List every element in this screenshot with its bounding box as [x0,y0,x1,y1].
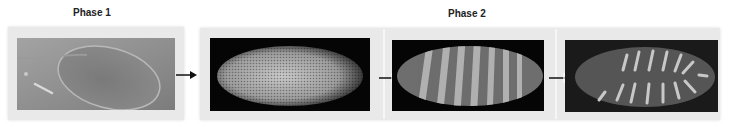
embryo-syncytial-nuclei [210,38,370,111]
arrow-right-icon [176,70,198,80]
phase-1-title: Phase 1 [73,7,111,18]
embryo-segments [565,40,718,112]
phase-2-title: Phase 2 [448,8,486,19]
embryo-stripes [392,40,544,111]
embryo-egg-photo [17,38,175,110]
